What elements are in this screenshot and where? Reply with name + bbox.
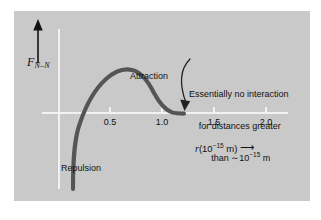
label-attraction: Attraction	[130, 71, 168, 82]
annotation-line-3-pre: than ∼10	[211, 153, 249, 163]
x-tick-label-1: 1.0	[149, 117, 175, 127]
x-axis-arrow-icon: ⟶	[240, 142, 254, 153]
annotation-line-3: than ∼10−15 m	[193, 153, 289, 164]
x-axis-title-units-close: m)	[224, 143, 238, 154]
x-axis-title-units-open: (10	[199, 143, 213, 154]
x-axis-title-exponent: −15	[213, 142, 224, 149]
y-axis-label-symbol: F	[27, 55, 35, 69]
y-axis-label: FN–N	[27, 55, 50, 70]
plot-panel: FN–N Attraction Repulsion Essentially no…	[14, 11, 310, 201]
y-axis-label-subscript: N–N	[35, 61, 50, 70]
annotation-line-3-post: m	[260, 153, 270, 163]
x-tick-label-2: 1.5	[201, 117, 227, 127]
x-tick-label-0: 0.5	[97, 117, 123, 127]
annotation-line-1: Essentially no interaction	[189, 89, 289, 100]
figure-root: FN–N Attraction Repulsion Essentially no…	[0, 0, 321, 220]
x-tick-label-3: 2.0	[253, 117, 279, 127]
label-repulsion: Repulsion	[61, 163, 101, 174]
x-axis-title: r(10−15 m)⟶	[195, 142, 254, 154]
